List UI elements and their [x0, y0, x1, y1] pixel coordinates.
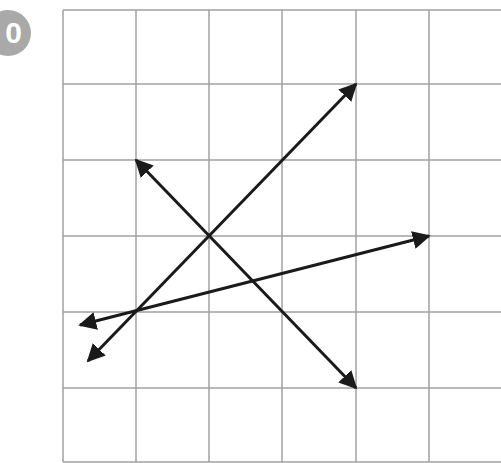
- grid-lines: [63, 10, 501, 462]
- grid-diagram: [0, 0, 501, 463]
- arrow-a: [88, 84, 356, 361]
- arrow-b: [136, 160, 356, 388]
